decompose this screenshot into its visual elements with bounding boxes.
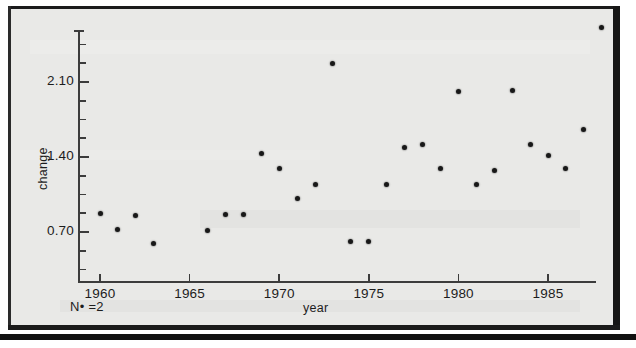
data-point xyxy=(366,239,371,244)
data-point xyxy=(241,212,246,217)
data-point xyxy=(98,211,103,216)
data-point xyxy=(384,182,389,187)
data-point xyxy=(492,168,497,173)
x-tick-label: 1970 xyxy=(259,286,299,301)
sample-size-annotation: N• =2 xyxy=(70,299,104,314)
data-point xyxy=(223,212,228,217)
data-point xyxy=(420,142,425,147)
screenshot-root: 0.701.402.10196019651970197519801985 cha… xyxy=(0,0,636,348)
scatter-plot: 0.701.402.10196019651970197519801985 cha… xyxy=(0,0,636,348)
data-point xyxy=(133,213,138,218)
y-axis-minor-tick xyxy=(80,175,86,177)
y-axis-major-tick xyxy=(80,81,89,83)
x-axis-major-tick xyxy=(99,274,101,281)
data-point xyxy=(259,151,264,156)
y-tick-label: 2.10 xyxy=(24,73,74,88)
y-axis-minor-tick xyxy=(80,269,86,271)
data-point xyxy=(510,88,515,93)
data-point xyxy=(205,228,210,233)
y-axis-minor-tick xyxy=(80,250,86,252)
x-tick-label: 1965 xyxy=(170,286,210,301)
data-point xyxy=(599,25,604,30)
data-point xyxy=(348,239,353,244)
x-axis-major-tick xyxy=(458,274,460,281)
x-axis-major-tick xyxy=(278,274,280,281)
y-axis-minor-tick xyxy=(80,62,86,64)
y-tick-label: 0.70 xyxy=(24,223,74,238)
data-point xyxy=(402,145,407,150)
y-axis-minor-tick xyxy=(80,44,86,46)
data-point xyxy=(528,142,533,147)
x-axis-major-tick xyxy=(189,274,191,281)
data-point xyxy=(474,182,479,187)
y-axis-minor-tick xyxy=(80,100,86,102)
x-axis-title: year xyxy=(303,301,329,315)
y-axis-top-cap xyxy=(74,30,84,32)
data-point xyxy=(438,166,443,171)
y-axis-major-tick xyxy=(80,231,89,233)
data-point xyxy=(546,153,551,158)
x-axis-major-tick xyxy=(368,274,370,281)
y-axis-minor-tick xyxy=(80,119,86,121)
y-axis-title: change xyxy=(36,147,50,190)
data-point xyxy=(277,166,282,171)
x-tick-label: 1975 xyxy=(349,286,389,301)
x-tick-label: 1980 xyxy=(438,286,478,301)
data-point xyxy=(563,166,568,171)
data-point xyxy=(151,241,156,246)
data-point xyxy=(115,227,120,232)
y-axis-major-tick xyxy=(80,156,89,158)
x-axis-major-tick xyxy=(547,274,549,281)
data-point xyxy=(313,182,318,187)
x-tick-label: 1985 xyxy=(528,286,568,301)
data-point xyxy=(330,61,335,66)
data-point xyxy=(581,127,586,132)
y-axis-minor-tick xyxy=(80,212,86,214)
x-axis-line xyxy=(78,281,596,283)
data-point xyxy=(295,196,300,201)
y-axis-minor-tick xyxy=(80,194,86,196)
data-point xyxy=(456,89,461,94)
y-axis-minor-tick xyxy=(80,137,86,139)
